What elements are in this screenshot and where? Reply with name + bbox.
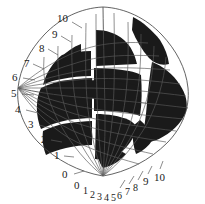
left-axis-tick-7: 7 [24,58,30,69]
left-axis-tick-2: 2 [41,134,47,145]
bottom-axis-tick-10: 10 [154,172,165,183]
bottom-axis-tick-9: 9 [143,176,149,187]
bottom-axis-tick-3: 3 [97,192,102,202]
left-axis-tick-8: 8 [39,43,45,54]
bottom-axis-tick-0: 0 [74,180,80,191]
bottom-axis-tick-2: 2 [90,190,95,200]
left-axis-tick-4: 4 [15,104,21,115]
left-axis-tick-1: 1 [54,150,60,161]
left-axis-tick-0: 0 [62,169,68,180]
warped-grid-figure [0,0,205,204]
left-axis-tick-5: 5 [11,88,17,99]
bottom-axis-tick-6: 6 [117,191,122,201]
bottom-axis-tick-1: 1 [83,186,88,196]
left-axis-tick-6: 6 [12,72,18,83]
left-axis-tick-3: 3 [28,119,34,130]
bottom-axis-tick-5: 5 [111,193,116,203]
bottom-axis-tick-4: 4 [104,193,109,203]
left-axis-tick-9: 9 [52,29,58,40]
left-axis-tick-10: 10 [57,13,68,24]
bottom-axis-tick-7: 7 [125,187,130,197]
figure-container: 10 9 8 7 6 5 4 3 2 1 0 0 1 2 3 4 5 6 7 8… [0,0,205,204]
bottom-axis-tick-8: 8 [133,183,138,193]
